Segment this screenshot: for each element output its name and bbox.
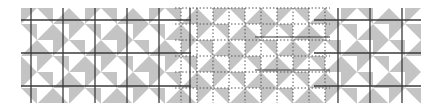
- triangle-tile: [101, 8, 117, 24]
- triangle-tile: [245, 88, 261, 103]
- triangle-tile: [245, 72, 261, 88]
- triangle-tile: [277, 40, 293, 56]
- triangle-tile: [53, 56, 69, 72]
- triangle-tile: [277, 24, 293, 40]
- triangle-tile: [229, 24, 245, 40]
- triangle-tile: [229, 72, 245, 88]
- pinwheel-pattern: [0, 0, 445, 103]
- triangle-tile: [69, 88, 85, 103]
- triangle-tile: [405, 24, 421, 40]
- triangle-tile: [229, 8, 245, 24]
- triangle-tile: [181, 24, 197, 40]
- triangle-tile: [405, 88, 421, 103]
- triangle-tile: [69, 56, 85, 72]
- triangle-tile: [261, 40, 277, 56]
- triangle-tile: [261, 8, 277, 24]
- triangle-tile: [181, 8, 197, 24]
- triangle-tile: [85, 8, 101, 24]
- triangle-tile: [53, 88, 69, 103]
- triangle-tile: [181, 88, 197, 103]
- triangle-tile: [37, 8, 53, 24]
- triangle-tile: [293, 88, 309, 103]
- triangle-tile: [53, 24, 69, 40]
- triangle-tile: [181, 56, 197, 72]
- triangle-tile: [341, 8, 357, 24]
- triangle-tile: [165, 24, 181, 40]
- triangle-tile: [293, 40, 309, 56]
- triangle-tile: [309, 24, 325, 40]
- triangle-tile: [341, 56, 357, 72]
- triangle-tile: [117, 88, 133, 103]
- triangle-tile: [21, 24, 37, 40]
- triangle-tile: [165, 88, 181, 103]
- triangle-tile: [149, 8, 165, 24]
- triangle-tile: [197, 8, 213, 24]
- triangle-tile: [197, 56, 213, 72]
- triangle-tile: [261, 88, 277, 103]
- triangle-tile: [213, 56, 229, 72]
- triangle-tile: [245, 40, 261, 56]
- triangle-tile: [373, 88, 389, 103]
- triangle-tile: [53, 8, 69, 24]
- triangle-tile: [165, 8, 181, 24]
- triangle-tile: [213, 72, 229, 88]
- triangle-tile: [133, 56, 149, 72]
- triangle-tile: [197, 72, 213, 88]
- triangle-tile: [165, 56, 181, 72]
- triangle-tile: [197, 40, 213, 56]
- triangle-tile: [69, 8, 85, 24]
- triangle-tile: [197, 88, 213, 103]
- triangle-tile: [85, 88, 101, 103]
- triangle-tile: [309, 8, 325, 24]
- triangle-tile: [405, 56, 421, 72]
- triangle-tile: [37, 88, 53, 103]
- triangle-tile: [21, 88, 37, 103]
- triangle-tile: [149, 56, 165, 72]
- triangle-tile: [101, 56, 117, 72]
- triangle-tile: [101, 88, 117, 103]
- triangle-tile: [149, 88, 165, 103]
- triangle-tile: [21, 56, 37, 72]
- triangle-tile: [309, 88, 325, 103]
- triangle-tile: [341, 88, 357, 103]
- triangle-tile: [373, 56, 389, 72]
- triangle-tile: [37, 56, 53, 72]
- triangle-tile: [341, 24, 357, 40]
- triangle-tile: [213, 8, 229, 24]
- triangle-tile: [117, 8, 133, 24]
- triangle-tile: [213, 40, 229, 56]
- triangle-tile: [229, 88, 245, 103]
- triangle-tile: [261, 72, 277, 88]
- triangle-tile: [117, 56, 133, 72]
- triangle-tile: [133, 24, 149, 40]
- triangle-tile: [277, 72, 293, 88]
- triangle-tile: [373, 24, 389, 40]
- triangle-tile: [277, 88, 293, 103]
- triangle-tile: [261, 24, 277, 40]
- triangle-tile: [229, 56, 245, 72]
- triangle-tile: [37, 24, 53, 40]
- triangle-tile: [69, 24, 85, 40]
- triangle-tile: [197, 24, 213, 40]
- triangle-tile: [229, 40, 245, 56]
- triangle-tile: [277, 8, 293, 24]
- triangle-tile: [405, 8, 421, 24]
- triangle-tile: [213, 24, 229, 40]
- triangle-tile: [21, 8, 37, 24]
- triangle-tile: [293, 8, 309, 24]
- triangle-tile: [149, 24, 165, 40]
- triangle-tile: [293, 24, 309, 40]
- triangle-tile: [293, 72, 309, 88]
- triangle-tile: [85, 56, 101, 72]
- triangle-tile: [133, 88, 149, 103]
- triangle-tile: [133, 8, 149, 24]
- triangle-tile: [101, 24, 117, 40]
- triangle-tile: [245, 24, 261, 40]
- triangle-tile: [245, 8, 261, 24]
- triangle-tile: [373, 8, 389, 24]
- triangle-tile: [85, 24, 101, 40]
- triangle-tile: [117, 24, 133, 40]
- triangle-tile: [213, 88, 229, 103]
